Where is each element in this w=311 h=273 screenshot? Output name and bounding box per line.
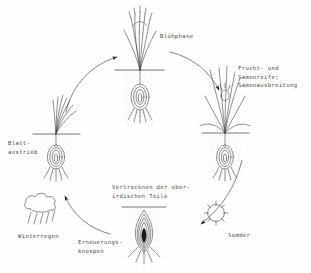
arrow-to-blattaustrieb [65,196,110,234]
stage-icon-bluehphase [115,6,164,123]
label-bluehphase: Blühphase [160,32,193,41]
label-sommer: Sommer [228,231,250,240]
label-winterregen: Winterregen [18,232,59,241]
rain-cloud-icon [25,193,56,224]
label-fruchtreife: Frucht- und Samenreife; Samenausbreitung [238,64,297,90]
sun-icon [204,201,228,225]
arrow-to-bluehphase [66,57,117,112]
life-cycle-diagram: Blühphase Frucht- und Samenreife; Samena… [0,0,311,273]
label-blattaustrieb: Blatt- austrieb [8,139,38,156]
arrow-to-fruchtreife [170,52,219,90]
label-vertrocknen: Vertrocknen der ober- irdischen Teile [112,183,190,200]
label-erneuerungsknospen: Erneuerungs- knospen [78,238,123,255]
stage-icon-erneuerungsknospen [122,206,166,264]
stage-icon-blattaustrieb [33,95,80,181]
